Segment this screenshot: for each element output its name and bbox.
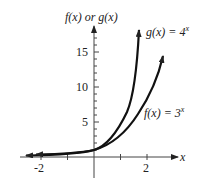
f-exponent: x [180,105,185,114]
tick-label-y-15: 15 [76,45,88,59]
f-curve-left [36,150,94,155]
tick-label-x-neg2: -2 [34,161,44,175]
y-ticks [94,38,99,150]
x-axis-label: x [179,150,186,164]
tick-label-y-5: 5 [82,115,88,129]
g-exponent: x [184,24,189,33]
f-curve [94,56,163,150]
tick-label-y-10: 10 [76,80,88,94]
exponential-chart: -2 2 5 10 15 f(x) or g(x) x g(x) = 4x f(… [0,0,202,185]
g-curve [94,30,139,150]
g-label: g(x) = 4x [146,24,189,39]
tick-label-x-2: 2 [143,161,149,175]
y-axis-label: f(x) or g(x) [65,10,118,24]
f-label: f(x) = 3x [144,105,185,120]
